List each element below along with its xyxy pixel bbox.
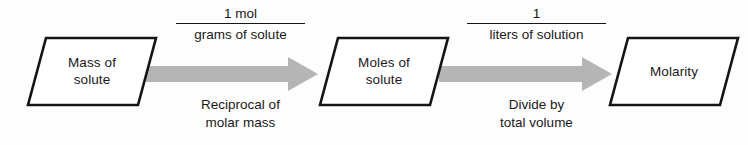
arrow-moles-to-molarity bbox=[439, 57, 612, 91]
node-label-line: solute bbox=[324, 71, 444, 88]
caption-line: total volume bbox=[464, 114, 609, 132]
caption-line: Reciprocal of bbox=[168, 96, 313, 114]
node-label-molarity: Molarity bbox=[614, 63, 734, 80]
fraction-denominator: grams of solute bbox=[176, 25, 305, 43]
node-label-line: Moles of bbox=[324, 54, 444, 71]
caption-line: molar mass bbox=[168, 114, 313, 132]
arrow-caption-moles-to-molarity: Divide by total volume bbox=[464, 96, 609, 132]
node-label-mass-of-solute: Mass of solute bbox=[32, 54, 152, 88]
node-label-line: solute bbox=[32, 71, 152, 88]
fraction-denominator: liters of solution bbox=[467, 25, 606, 43]
arrow-fraction-moles-to-molarity: 1 liters of solution bbox=[467, 5, 606, 43]
node-label-moles-of-solute: Moles of solute bbox=[324, 54, 444, 88]
node-label-line: Mass of bbox=[32, 54, 152, 71]
fraction-numerator: 1 bbox=[467, 5, 606, 23]
fraction-numerator: 1 mol bbox=[176, 5, 305, 23]
caption-line: Divide by bbox=[464, 96, 609, 114]
molarity-flow-diagram: Mass of solute Moles of solute Molarity … bbox=[0, 0, 748, 145]
arrow-caption-mass-to-moles: Reciprocal of molar mass bbox=[168, 96, 313, 132]
node-label-line: Molarity bbox=[614, 63, 734, 80]
arrow-fraction-mass-to-moles: 1 mol grams of solute bbox=[176, 5, 305, 43]
arrow-mass-to-moles bbox=[146, 57, 318, 91]
fraction-bar bbox=[176, 23, 305, 24]
fraction-bar bbox=[467, 23, 606, 24]
